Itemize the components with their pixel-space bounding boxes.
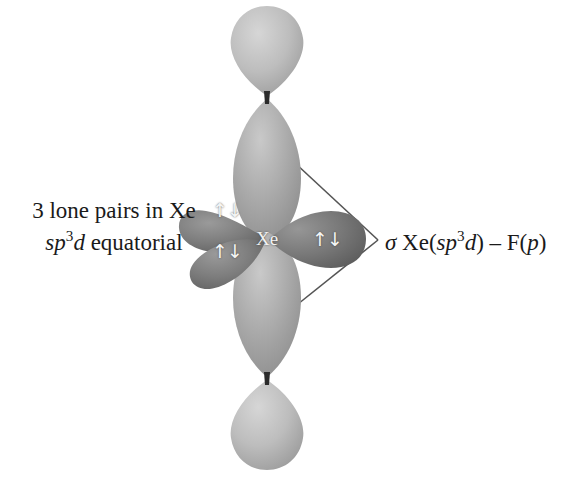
right-annotation-dash: ) – F( bbox=[476, 230, 527, 255]
right-annotation-d: d bbox=[465, 230, 477, 255]
right-annotation-xe-open: Xe( bbox=[396, 230, 436, 255]
left-annotation-line1: 3 lone pairs in Xe bbox=[32, 198, 196, 223]
orbital-diagram-figure: Xe ↑↓ ↑↓ ↑↓ 3 lone pairs in Xe sp3d equa… bbox=[0, 0, 578, 477]
left-annotation-d: d bbox=[73, 230, 85, 255]
right-annotation-end: ) bbox=[539, 230, 547, 255]
left-annotation: 3 lone pairs in Xe sp3d equatorial bbox=[8, 196, 220, 258]
right-annotation: σ Xe(sp3d) – F(p) bbox=[385, 226, 546, 258]
center-atom-label: Xe bbox=[247, 228, 287, 250]
left-annotation-sp: sp bbox=[45, 230, 65, 255]
node-point-bottom bbox=[264, 372, 270, 385]
left-annotation-line2: sp3d equatorial bbox=[8, 226, 220, 258]
node-point-top bbox=[264, 91, 270, 104]
sigma-symbol: σ bbox=[385, 230, 396, 255]
left-annotation-rest: equatorial bbox=[85, 230, 183, 255]
axial-lobe-bottom-outer bbox=[231, 380, 304, 470]
axial-lobe-top-inner bbox=[233, 99, 301, 244]
right-annotation-p: p bbox=[527, 230, 539, 255]
right-annotation-sp: sp bbox=[437, 230, 457, 255]
right-lone-pair-electrons: ↑↓ bbox=[312, 228, 342, 250]
right-annotation-exponent: 3 bbox=[457, 227, 465, 244]
axial-lobe-top-outer bbox=[231, 6, 304, 96]
